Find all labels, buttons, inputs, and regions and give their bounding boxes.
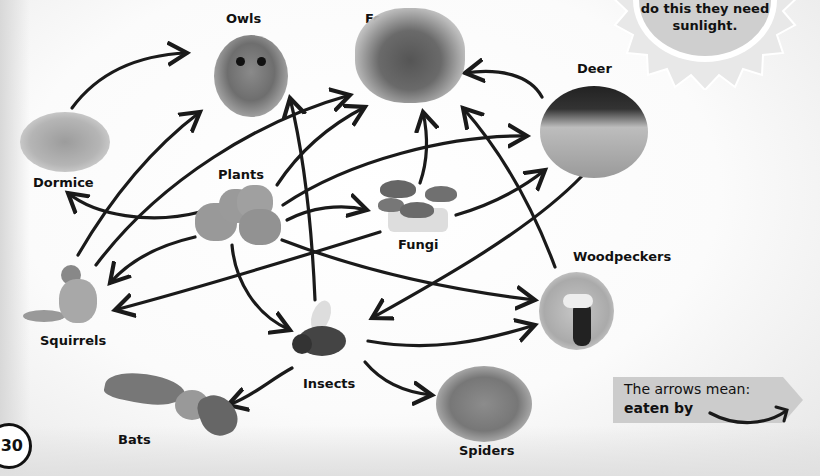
- node-label-dormice: Dormice: [33, 175, 94, 190]
- node-label-bats: Bats: [118, 432, 151, 447]
- arrow-insects-woodpeckers: [368, 325, 535, 346]
- page-number: 30: [1, 436, 23, 455]
- food-web-page: do this they need sunlight.: [0, 0, 820, 476]
- node-label-fungi: Fungi: [398, 237, 439, 252]
- node-label-squirrels: Squirrels: [40, 333, 106, 348]
- spider-image: [436, 366, 532, 442]
- deer-image: [540, 86, 648, 178]
- woodpecker-image: [539, 272, 614, 350]
- bat-image: [105, 372, 240, 440]
- node-label-spiders: Spiders: [459, 443, 514, 458]
- plants-image: [195, 185, 285, 247]
- legend-arrow-icon: [706, 403, 796, 427]
- fungi-image: [378, 180, 460, 232]
- fox-image: [355, 8, 465, 103]
- dormouse-image: [20, 112, 110, 172]
- node-label-insects: Insects: [303, 376, 355, 391]
- legend-title: The arrows mean:: [624, 381, 750, 397]
- arrow-insects-spiders: [365, 362, 432, 395]
- arrow-plants-fungi: [287, 207, 367, 220]
- owl-image: [214, 35, 288, 117]
- node-label-deer: Deer: [577, 61, 612, 76]
- insect-image: [292, 300, 362, 368]
- arrow-plants-foxes: [277, 107, 365, 185]
- arrow-plants-dormice: [68, 193, 200, 218]
- squirrel-image: [23, 265, 103, 325]
- legend-meaning: eaten by: [624, 400, 693, 416]
- node-label-woodpeckers: Woodpeckers: [573, 249, 671, 264]
- arrow-plants-insects: [232, 245, 290, 330]
- arrow-deer-foxes: [465, 71, 542, 97]
- node-label-plants: Plants: [218, 167, 264, 182]
- arrow-dormice-owls: [72, 53, 187, 108]
- arrow-plants-squirrels: [110, 237, 195, 283]
- arrow-fungi-deer: [456, 170, 545, 215]
- node-label-owls: Owls: [226, 11, 261, 26]
